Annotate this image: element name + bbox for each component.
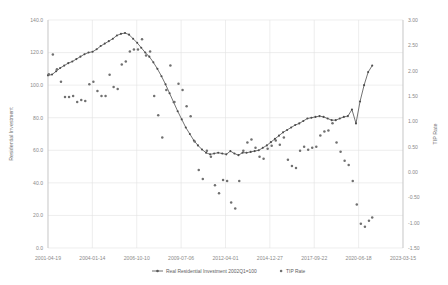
data-point	[355, 122, 357, 124]
x-axis-tick-label: 2012-04-01	[212, 255, 238, 261]
data-point	[52, 53, 55, 56]
y2-axis-tick-label: 0.50	[408, 144, 418, 150]
y2-axis-tick-label: -1.50	[408, 245, 420, 251]
data-point	[205, 152, 207, 154]
legend-label: TIP Rate	[286, 269, 305, 274]
data-point	[347, 164, 350, 167]
data-point	[339, 117, 341, 119]
data-point	[318, 115, 320, 117]
data-point	[371, 216, 374, 219]
data-point	[128, 34, 130, 36]
data-point	[238, 180, 241, 183]
data-point	[104, 95, 107, 98]
data-point	[302, 120, 304, 122]
data-point	[299, 149, 302, 152]
data-point	[295, 167, 298, 170]
data-point	[75, 58, 77, 60]
x-axis-ticks: 2001-04-192004-01-142006-10-102009-07-06…	[35, 255, 416, 261]
data-point	[193, 140, 196, 143]
data-point	[112, 38, 114, 40]
data-point	[173, 101, 176, 104]
data-point	[306, 117, 308, 119]
data-point	[221, 152, 223, 154]
data-point	[148, 56, 150, 58]
y-axis-left-ticks: 0.020.040.060.080.0100.0120.0140.0	[30, 17, 43, 251]
data-point	[234, 207, 237, 210]
data-point	[368, 219, 371, 222]
data-point	[327, 117, 329, 119]
legend-item[interactable]: Real Residential Investment 2002Q1=100	[152, 269, 257, 274]
x-axis-tick-label: 2009-07-06	[168, 255, 194, 261]
data-point	[181, 89, 184, 92]
legend-item[interactable]: TIP Rate	[280, 269, 306, 274]
x-axis-tick-label: 2004-01-14	[79, 255, 105, 261]
data-point	[270, 144, 273, 147]
data-point	[100, 45, 102, 47]
data-point	[335, 119, 337, 121]
data-point	[177, 110, 179, 112]
data-point	[92, 81, 95, 84]
data-point	[371, 65, 373, 67]
data-point	[51, 74, 53, 76]
data-point	[116, 34, 118, 36]
scatter-series	[48, 38, 374, 228]
data-point	[331, 122, 334, 125]
data-point	[76, 101, 79, 104]
y-axis-right-ticks: -1.50-1.00-0.500.000.501.001.502.002.503…	[408, 17, 420, 251]
data-point	[152, 61, 154, 63]
data-point	[125, 60, 128, 63]
data-point	[246, 141, 249, 144]
legend-label: Real Residential Investment 2002Q1=100	[166, 269, 257, 274]
data-point	[209, 153, 211, 155]
data-point	[314, 116, 316, 118]
y-axis-tick-label: 0.0	[36, 245, 43, 251]
data-point	[177, 83, 180, 86]
y-axis-tick-label: 120.0	[30, 49, 43, 55]
data-point	[87, 52, 89, 54]
y-axis-tick-label: 40.0	[33, 180, 43, 186]
data-point	[282, 131, 284, 133]
data-point	[229, 150, 231, 152]
data-point	[258, 149, 260, 151]
data-point	[262, 147, 264, 149]
data-point	[250, 151, 252, 153]
data-point	[352, 180, 355, 183]
data-point	[79, 56, 81, 58]
data-point	[225, 153, 227, 155]
data-point	[226, 180, 229, 183]
data-point	[96, 48, 98, 50]
data-point	[120, 33, 122, 35]
data-point	[278, 135, 280, 137]
data-point	[323, 130, 326, 133]
data-point	[262, 158, 265, 161]
legend: Real Residential Investment 2002Q1=100TI…	[152, 269, 306, 274]
data-point	[206, 149, 209, 152]
data-point	[63, 65, 65, 67]
data-point	[254, 146, 256, 149]
data-point	[48, 73, 51, 76]
data-point	[141, 38, 144, 41]
data-point	[149, 50, 152, 53]
y-axis-tick-label: 80.0	[33, 115, 43, 121]
data-point	[124, 32, 126, 34]
data-point	[96, 90, 99, 93]
data-point	[160, 75, 162, 77]
data-point	[254, 150, 256, 152]
y2-axis-tick-label: 1.00	[408, 118, 418, 124]
data-point	[360, 222, 363, 225]
data-point	[270, 141, 272, 143]
data-point	[213, 152, 215, 154]
data-point	[116, 88, 119, 91]
y2-axis-tick-label: 2.50	[408, 42, 418, 48]
y2-axis-tick-label: 1.50	[408, 93, 418, 99]
data-point	[266, 144, 268, 146]
data-point	[129, 50, 132, 53]
data-point	[156, 68, 158, 70]
data-point	[59, 67, 61, 69]
y2-axis-tick-label: 2.00	[408, 68, 418, 74]
data-point	[307, 148, 310, 151]
data-point	[210, 156, 213, 159]
x-axis-tick-label: 2020-06-18	[346, 255, 372, 261]
dual-axis-chart: 0.020.040.060.080.0100.0120.0140.0-1.50-…	[0, 0, 448, 285]
data-point	[250, 138, 253, 141]
